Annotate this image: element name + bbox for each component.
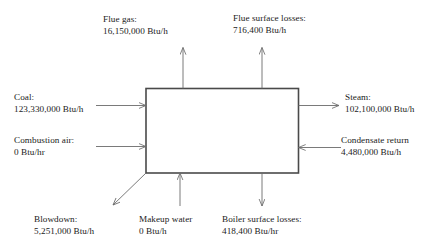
label-flue-gas-value: 16,150,000 Btu/h xyxy=(103,26,168,38)
label-steam-title: Steam: xyxy=(345,92,415,104)
label-makeup-water-title: Makeup water xyxy=(139,214,192,226)
label-blowdown: Blowdown: 5,251,000 Btu/h xyxy=(34,214,94,237)
label-combustion-air-value: 0 Btu/hr xyxy=(14,147,74,159)
label-flue-surface-losses-title: Flue surface losses: xyxy=(233,13,306,25)
label-flue-surface-losses-value: 716,400 Btu/h xyxy=(233,25,306,37)
label-condensate-return-title: Condensate return xyxy=(341,135,409,147)
label-blowdown-value: 5,251,000 Btu/h xyxy=(34,226,94,238)
arrow-blowdown xyxy=(113,173,146,205)
label-coal: Coal: 123,330,000 Btu/h xyxy=(14,92,84,115)
label-flue-surface-losses: Flue surface losses: 716,400 Btu/h xyxy=(233,13,306,36)
label-boiler-surface-losses-title: Boiler surface losses: xyxy=(222,214,302,226)
label-flue-gas-title: Flue gas: xyxy=(103,14,168,26)
label-steam: Steam: 102,100,000 Btu/h xyxy=(345,92,415,115)
label-boiler-surface-losses: Boiler surface losses: 418,400 Btu/hr xyxy=(222,214,302,237)
label-steam-value: 102,100,000 Btu/h xyxy=(345,104,415,116)
label-coal-title: Coal: xyxy=(14,92,84,104)
label-makeup-water: Makeup water 0 Btu/h xyxy=(139,214,192,237)
diagram-canvas: Flue gas: 16,150,000 Btu/h Flue surface … xyxy=(0,0,445,252)
label-blowdown-title: Blowdown: xyxy=(34,214,94,226)
label-combustion-air: Combustion air: 0 Btu/hr xyxy=(14,135,74,158)
label-combustion-air-title: Combustion air: xyxy=(14,135,74,147)
label-flue-gas: Flue gas: 16,150,000 Btu/h xyxy=(103,14,168,37)
label-coal-value: 123,330,000 Btu/h xyxy=(14,104,84,116)
label-makeup-water-value: 0 Btu/h xyxy=(139,226,192,238)
label-boiler-surface-losses-value: 418,400 Btu/hr xyxy=(222,226,302,238)
boiler-control-volume-box xyxy=(146,89,299,174)
label-condensate-return: Condensate return 4,480,000 Btu/h xyxy=(341,135,409,158)
label-condensate-return-value: 4,480,000 Btu/h xyxy=(341,147,409,159)
